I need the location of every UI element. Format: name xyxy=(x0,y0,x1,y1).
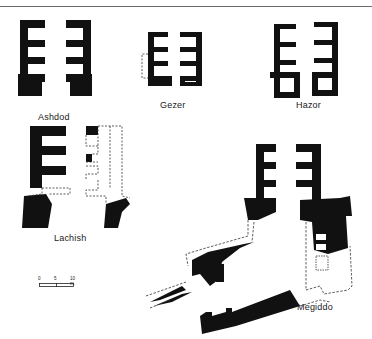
scale-bar: 0 5 10 m. xyxy=(38,276,74,290)
gezer-gate-plan xyxy=(138,32,204,92)
lachish-gate-plan xyxy=(18,124,136,228)
ashdod-gate-plan xyxy=(14,20,96,102)
megiddo-gate-plan xyxy=(140,140,370,339)
header-rule xyxy=(0,6,372,7)
lachish-label: Lachish xyxy=(54,233,86,243)
hazor-gate-plan xyxy=(268,22,340,100)
ashdod-label: Ashdod xyxy=(38,112,70,122)
scale-tick-5: 5 xyxy=(54,276,57,281)
megiddo-label: Megiddo xyxy=(297,302,333,312)
scale-bar-graphic xyxy=(39,283,77,288)
gezer-label: Gezer xyxy=(160,100,186,110)
hazor-label: Hazor xyxy=(296,100,321,110)
scale-tick-0: 0 xyxy=(38,276,41,281)
